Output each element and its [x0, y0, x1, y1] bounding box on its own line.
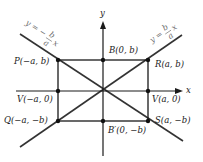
- point-B-prime: [101, 119, 105, 123]
- label-Q: Q(−a, −b): [4, 115, 48, 125]
- label-B-prime: B′(0, −b): [107, 125, 146, 135]
- svg-text:y = −: y = −: [23, 18, 48, 39]
- label-P: P(−a, b): [13, 56, 49, 66]
- label-S: S(a, −b): [155, 115, 191, 125]
- point-V-left: [56, 89, 60, 93]
- equation-positive-slope: y = b a x: [146, 18, 182, 51]
- svg-text:x: x: [170, 22, 179, 32]
- hyperbola-rectangle-diagram: y x P(−a, b) B(0, b) R(a, b) V(−a, 0) V(…: [0, 0, 203, 162]
- point-P: [56, 58, 60, 62]
- point-S: [146, 119, 150, 123]
- label-V-left: V(−a, 0): [17, 94, 53, 104]
- svg-text:x: x: [51, 38, 60, 48]
- y-axis-label: y: [99, 8, 105, 18]
- x-axis-label: x: [186, 85, 191, 95]
- label-R: R(a, b): [154, 59, 184, 69]
- svg-text:y =: y =: [147, 29, 164, 45]
- point-R: [146, 58, 150, 62]
- svg-text:a: a: [42, 38, 51, 48]
- label-V-right: V(a, 0): [152, 94, 181, 104]
- y-axis-arrow-icon: [100, 21, 106, 29]
- label-B: B(0, b): [108, 45, 138, 55]
- point-V-right: [146, 89, 150, 93]
- point-Q: [56, 119, 60, 123]
- point-B: [101, 58, 105, 62]
